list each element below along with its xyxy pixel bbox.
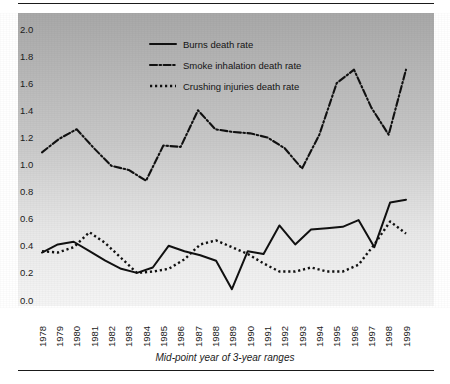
x-tick-label: 1987 [193, 326, 204, 347]
bottom-divider-rule [18, 370, 434, 371]
x-tick-label: 1980 [71, 326, 82, 347]
y-tick-label: 1.4 [20, 105, 33, 116]
x-tick-label: 1993 [297, 326, 308, 347]
x-tick-label: 1991 [262, 326, 273, 347]
x-tick-label: 1996 [349, 326, 360, 347]
y-tick-label: 1.6 [20, 78, 33, 89]
legend-label: Crushing injuries death rate [183, 81, 299, 92]
x-tick-label: 1979 [54, 326, 65, 347]
y-tick-label: 0.2 [20, 267, 33, 278]
x-tick-label: 1985 [158, 326, 169, 347]
y-tick-label: 0.0 [20, 295, 33, 306]
y-tick-label: 1.8 [20, 51, 33, 62]
y-tick-label: 0.4 [20, 240, 33, 251]
y-tick-label: 0.6 [20, 213, 33, 224]
y-tick-label: 1.0 [20, 159, 33, 170]
y-tick-label: 0.8 [20, 186, 33, 197]
x-tick-label: 1998 [383, 326, 394, 347]
x-tick-label: 1988 [210, 326, 221, 347]
x-axis-title: Mid-point year of 3-year ranges [0, 352, 450, 363]
x-tick-label: 1995 [331, 326, 342, 347]
y-tick-label: 1.2 [20, 132, 33, 143]
plot-area: 2.01.81.61.41.21.00.80.60.40.20.0 Burns … [0, 13, 450, 308]
plot-background [18, 13, 434, 306]
x-tick-label: 1982 [106, 326, 117, 347]
x-tick-label: 1986 [175, 326, 186, 347]
line-chart-svg: 2.01.81.61.41.21.00.80.60.40.20.0 Burns … [0, 13, 450, 308]
x-tick-label: 1983 [123, 326, 134, 347]
x-tick-label: 1994 [314, 326, 325, 347]
chart-figure: 2.01.81.61.41.21.00.80.60.40.20.0 Burns … [0, 0, 450, 384]
x-tick-label: 1978 [37, 326, 48, 347]
x-tick-label: 1992 [279, 326, 290, 347]
x-tick-label: 1990 [245, 326, 256, 347]
x-tick-label: 1997 [366, 326, 377, 347]
top-divider-rule [18, 3, 434, 4]
x-tick-label: 1981 [89, 326, 100, 347]
legend-label: Smoke inhalation death rate [183, 60, 301, 71]
y-tick-label: 2.0 [20, 24, 33, 35]
x-tick-label: 1984 [141, 326, 152, 347]
legend-label: Burns death rate [183, 39, 253, 50]
x-tick-label: 1999 [401, 326, 412, 347]
x-tick-label: 1989 [227, 326, 238, 347]
